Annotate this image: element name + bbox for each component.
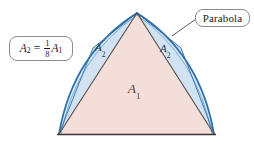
area-label-a2-right: A2 bbox=[160, 43, 170, 57]
area-label-a2-right-subscript: 2 bbox=[167, 51, 171, 60]
formula-rhs-var: A bbox=[51, 43, 58, 55]
parabola-callout-label: Parabola bbox=[203, 12, 242, 24]
callout-leader-line bbox=[172, 19, 196, 36]
formula-denominator: 8 bbox=[44, 48, 50, 58]
formula-rhs-subscript: 1 bbox=[58, 47, 62, 55]
area-label-a1-subscript: 1 bbox=[136, 91, 140, 101]
parabola-area-figure: Parabola A2=18A1 A1 A2 A2 bbox=[0, 0, 254, 146]
formula-lhs-var: A bbox=[20, 43, 27, 55]
area-label-a2-left-var: A bbox=[95, 41, 102, 53]
parabola-callout-box: Parabola bbox=[195, 9, 250, 27]
area-label-a2-left-subscript: 2 bbox=[102, 50, 106, 59]
formula-numerator: 1 bbox=[44, 39, 50, 48]
formula-expression: A2=18A1 bbox=[20, 39, 63, 58]
formula-box: A2=18A1 bbox=[9, 36, 73, 61]
formula-fraction: 18 bbox=[44, 39, 50, 58]
area-label-a1: A1 bbox=[128, 82, 140, 98]
area-label-a2-right-var: A bbox=[160, 42, 167, 54]
formula-equals: = bbox=[34, 43, 41, 55]
area-label-a1-var: A bbox=[128, 81, 136, 96]
formula-lhs-subscript: 2 bbox=[27, 47, 31, 55]
area-label-a2-left: A2 bbox=[95, 42, 105, 56]
